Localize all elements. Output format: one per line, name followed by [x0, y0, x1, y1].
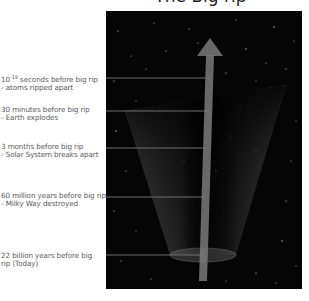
event-label-earth: 30 minutes before big rip - Earth explod…: [1, 106, 90, 122]
space-panel: [106, 11, 302, 289]
event-label-today: 22 billion years before big rip (Today): [1, 252, 92, 268]
event-label-milky-way: 60 million years before big rip - Milky …: [1, 192, 106, 208]
event-label-atoms: 10-19 seconds before big rip - atoms rip…: [1, 73, 98, 92]
event-label-solar-system: 3 months before big rip - Solar System b…: [1, 143, 98, 159]
diagram-title: The Big rip: [46, 0, 309, 6]
big-rip-illustration: [106, 11, 302, 289]
